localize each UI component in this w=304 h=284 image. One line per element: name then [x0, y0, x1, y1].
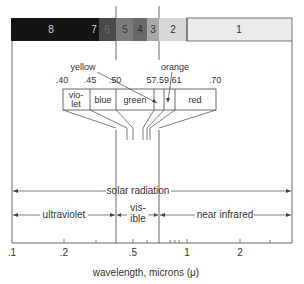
boundary-040: .40 [56, 75, 69, 85]
label-visible-1: vis- [130, 202, 146, 213]
segment-blue: blue [94, 95, 111, 105]
visible-colors-box: yellow orange .40 .45 .50 57.59.61 .70 v… [56, 62, 222, 140]
band-label-3: 3 [150, 24, 156, 35]
tick-label-1: 1 [184, 247, 190, 258]
boundary-070: .70 [209, 75, 222, 85]
band-label-8: 8 [48, 24, 54, 35]
label-visible-2: ible [130, 213, 146, 224]
boundary-045: .45 [84, 75, 97, 85]
band-label-4: 4 [137, 24, 143, 35]
label-solar-radiation: solar radiation [107, 185, 170, 196]
band-label-7: 7 [91, 24, 97, 35]
solar-radiation-range: solar radiation [13, 185, 291, 196]
label-near-infrared: near infrared [197, 209, 254, 220]
label-yellow: yellow [70, 62, 96, 72]
tick-label-0.5: .5 [129, 247, 138, 258]
segment-green: green [123, 95, 146, 105]
label-orange: orange [161, 62, 189, 72]
band-8-7 [11, 18, 99, 41]
band-bar: 8 7 6 5 4 3 2 1 [11, 18, 292, 41]
band-label-1: 1 [236, 24, 242, 35]
tick-label-0.1: .1 [8, 247, 17, 258]
band-label-5: 5 [122, 24, 128, 35]
wavelength-axis: .1 .2 .5 1 2 wavelength, microns (μ) [8, 239, 292, 278]
segment-violet-2: let [71, 99, 81, 109]
band-label-2: 2 [170, 24, 176, 35]
segment-red: red [188, 95, 201, 105]
tick-label-0.2: .2 [60, 247, 69, 258]
boundary-57-59-61: 57.59.61 [146, 75, 181, 85]
solar-spectrum-diagram: 8 7 6 5 4 3 2 1 yellow orange .40 .45 .5… [0, 0, 304, 284]
spectral-ranges: ultraviolet vis- ible near infrared [13, 202, 291, 224]
tick-label-2: 2 [237, 247, 243, 258]
axis-title: wavelength, microns (μ) [92, 267, 199, 278]
band-label-6: 6 [104, 24, 110, 35]
label-ultraviolet: ultraviolet [43, 209, 86, 220]
